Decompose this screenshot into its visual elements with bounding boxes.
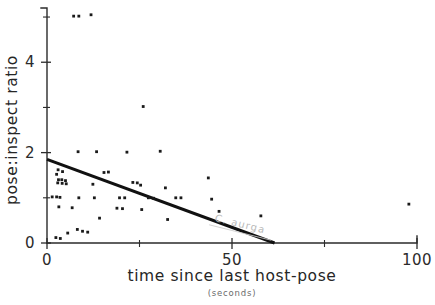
data-point bbox=[77, 196, 80, 199]
y-axis-tick-labels: 024 bbox=[25, 53, 35, 252]
data-point bbox=[139, 184, 142, 187]
data-point bbox=[103, 171, 106, 174]
y-axis-ticks bbox=[41, 17, 51, 243]
data-point bbox=[57, 205, 60, 208]
y-tick-label: 4 bbox=[25, 53, 35, 71]
data-point bbox=[166, 218, 169, 221]
data-point bbox=[77, 15, 80, 18]
data-point bbox=[76, 228, 79, 231]
x-tick-label: 100 bbox=[402, 251, 432, 269]
x-axis-title: time since last host-pose bbox=[127, 267, 336, 285]
y-axis-line bbox=[41, 8, 47, 243]
data-point bbox=[86, 231, 89, 234]
data-point bbox=[95, 150, 98, 153]
data-point bbox=[98, 217, 101, 220]
data-point bbox=[159, 150, 162, 153]
data-point bbox=[55, 173, 58, 176]
data-point bbox=[210, 198, 213, 201]
data-point bbox=[118, 196, 121, 199]
data-point bbox=[81, 230, 84, 233]
data-point bbox=[51, 196, 54, 199]
data-point bbox=[54, 236, 57, 239]
figure-container: C. aurga 024 050100 pose:inspect ratio t… bbox=[0, 0, 435, 305]
y-tick-label: 0 bbox=[25, 234, 35, 252]
data-point bbox=[147, 196, 150, 199]
plot-axes bbox=[41, 8, 417, 249]
data-point bbox=[65, 182, 68, 185]
data-point bbox=[61, 182, 64, 185]
data-points bbox=[51, 13, 410, 240]
data-point bbox=[121, 207, 124, 210]
y-tick-label: 2 bbox=[25, 144, 35, 162]
data-point bbox=[61, 170, 64, 173]
data-point bbox=[77, 150, 80, 153]
data-point bbox=[60, 178, 63, 181]
data-point bbox=[56, 181, 59, 184]
data-point bbox=[116, 207, 119, 210]
data-point bbox=[152, 197, 155, 200]
data-point bbox=[66, 232, 69, 235]
data-point bbox=[136, 181, 139, 184]
data-point bbox=[259, 214, 262, 217]
data-point bbox=[57, 178, 60, 181]
data-point bbox=[126, 151, 129, 154]
data-point bbox=[123, 196, 126, 199]
scatter-plot: C. aurga 024 050100 pose:inspect ratio t… bbox=[0, 0, 435, 305]
scan-watermark: C. aurga bbox=[209, 211, 274, 240]
scan-watermark: C. aurga bbox=[209, 211, 274, 240]
data-point bbox=[180, 196, 183, 199]
data-point bbox=[164, 186, 167, 189]
data-point bbox=[55, 196, 58, 199]
data-point bbox=[140, 208, 143, 211]
x-tick-label: 0 bbox=[42, 251, 52, 269]
y-axis-title: pose:inspect ratio bbox=[3, 55, 21, 205]
data-point bbox=[72, 15, 75, 18]
data-point bbox=[57, 168, 60, 171]
data-point bbox=[91, 183, 94, 186]
data-point bbox=[71, 206, 74, 209]
data-point bbox=[207, 177, 210, 180]
data-point bbox=[407, 203, 410, 206]
data-point bbox=[64, 179, 67, 182]
data-point bbox=[59, 196, 62, 199]
data-point bbox=[174, 196, 177, 199]
x-axis-units-label: (seconds) bbox=[208, 288, 257, 298]
data-point bbox=[131, 181, 134, 184]
data-point bbox=[90, 13, 93, 16]
data-point bbox=[93, 196, 96, 199]
data-point bbox=[107, 171, 110, 174]
data-point bbox=[59, 237, 62, 240]
data-point bbox=[142, 105, 145, 108]
